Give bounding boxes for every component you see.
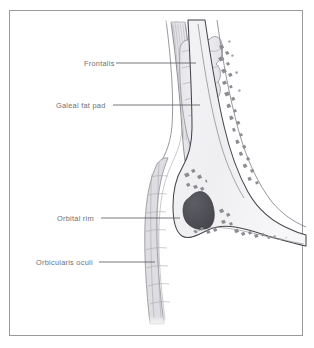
label-frontalis: Frontalis <box>84 60 115 67</box>
label-orbital-rim: Orbital rim <box>57 215 94 222</box>
label-galeal-fat-pad: Galeal fat pad <box>56 102 106 109</box>
label-orbicularis-oculi: Orbicularis oculi <box>36 259 93 266</box>
anatomy-illustration <box>0 0 314 348</box>
illustration-page: Frontalis Galeal fat pad Orbital rim Orb… <box>0 0 314 348</box>
